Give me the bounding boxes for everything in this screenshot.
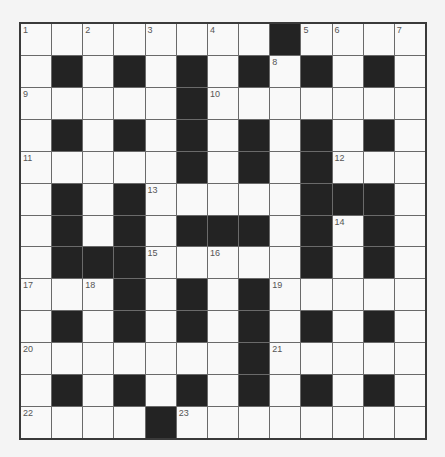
letter-cell[interactable] <box>146 56 176 87</box>
letter-cell[interactable]: 1 <box>21 24 51 55</box>
letter-cell[interactable] <box>177 247 207 278</box>
letter-cell[interactable] <box>177 184 207 215</box>
letter-cell[interactable] <box>177 343 207 374</box>
letter-cell[interactable] <box>208 120 238 151</box>
letter-cell[interactable]: 21 <box>270 343 300 374</box>
letter-cell[interactable] <box>395 216 425 247</box>
letter-cell[interactable]: 8 <box>270 56 300 87</box>
letter-cell[interactable] <box>52 152 82 183</box>
letter-cell[interactable] <box>333 120 363 151</box>
letter-cell[interactable] <box>395 407 425 438</box>
letter-cell[interactable] <box>301 407 331 438</box>
letter-cell[interactable] <box>239 184 269 215</box>
letter-cell[interactable] <box>21 375 51 406</box>
letter-cell[interactable] <box>83 407 113 438</box>
letter-cell[interactable] <box>83 88 113 119</box>
letter-cell[interactable] <box>270 120 300 151</box>
letter-cell[interactable]: 13 <box>146 184 176 215</box>
letter-cell[interactable] <box>395 247 425 278</box>
letter-cell[interactable] <box>208 375 238 406</box>
letter-cell[interactable] <box>301 88 331 119</box>
letter-cell[interactable]: 22 <box>21 407 51 438</box>
letter-cell[interactable] <box>208 56 238 87</box>
letter-cell[interactable]: 20 <box>21 343 51 374</box>
letter-cell[interactable]: 4 <box>208 24 238 55</box>
letter-cell[interactable] <box>208 152 238 183</box>
letter-cell[interactable]: 5 <box>301 24 331 55</box>
letter-cell[interactable] <box>146 279 176 310</box>
letter-cell[interactable] <box>146 311 176 342</box>
letter-cell[interactable] <box>114 343 144 374</box>
letter-cell[interactable] <box>21 216 51 247</box>
letter-cell[interactable] <box>301 279 331 310</box>
letter-cell[interactable] <box>208 311 238 342</box>
letter-cell[interactable] <box>21 184 51 215</box>
letter-cell[interactable] <box>146 375 176 406</box>
letter-cell[interactable] <box>395 56 425 87</box>
letter-cell[interactable] <box>239 24 269 55</box>
letter-cell[interactable] <box>364 88 394 119</box>
letter-cell[interactable] <box>364 407 394 438</box>
letter-cell[interactable] <box>146 152 176 183</box>
letter-cell[interactable] <box>270 247 300 278</box>
letter-cell[interactable] <box>83 184 113 215</box>
letter-cell[interactable] <box>333 311 363 342</box>
letter-cell[interactable]: 14 <box>333 216 363 247</box>
letter-cell[interactable] <box>114 152 144 183</box>
letter-cell[interactable] <box>52 407 82 438</box>
letter-cell[interactable] <box>239 247 269 278</box>
letter-cell[interactable] <box>301 343 331 374</box>
letter-cell[interactable] <box>21 311 51 342</box>
letter-cell[interactable] <box>395 152 425 183</box>
letter-cell[interactable] <box>395 343 425 374</box>
letter-cell[interactable] <box>333 343 363 374</box>
letter-cell[interactable]: 15 <box>146 247 176 278</box>
letter-cell[interactable]: 18 <box>83 279 113 310</box>
letter-cell[interactable] <box>270 88 300 119</box>
letter-cell[interactable]: 9 <box>21 88 51 119</box>
letter-cell[interactable] <box>208 184 238 215</box>
letter-cell[interactable] <box>270 407 300 438</box>
letter-cell[interactable] <box>146 88 176 119</box>
letter-cell[interactable] <box>333 375 363 406</box>
letter-cell[interactable] <box>146 216 176 247</box>
letter-cell[interactable]: 17 <box>21 279 51 310</box>
letter-cell[interactable]: 19 <box>270 279 300 310</box>
letter-cell[interactable] <box>333 279 363 310</box>
letter-cell[interactable] <box>83 343 113 374</box>
letter-cell[interactable] <box>239 88 269 119</box>
letter-cell[interactable] <box>395 88 425 119</box>
letter-cell[interactable]: 11 <box>21 152 51 183</box>
letter-cell[interactable] <box>395 375 425 406</box>
letter-cell[interactable]: 6 <box>333 24 363 55</box>
letter-cell[interactable] <box>364 343 394 374</box>
letter-cell[interactable] <box>21 120 51 151</box>
letter-cell[interactable] <box>83 120 113 151</box>
letter-cell[interactable]: 23 <box>177 407 207 438</box>
letter-cell[interactable] <box>333 88 363 119</box>
letter-cell[interactable]: 12 <box>333 152 363 183</box>
letter-cell[interactable]: 10 <box>208 88 238 119</box>
letter-cell[interactable] <box>83 152 113 183</box>
letter-cell[interactable] <box>208 407 238 438</box>
letter-cell[interactable] <box>21 56 51 87</box>
letter-cell[interactable] <box>83 56 113 87</box>
letter-cell[interactable] <box>395 184 425 215</box>
letter-cell[interactable] <box>333 247 363 278</box>
letter-cell[interactable] <box>239 407 269 438</box>
letter-cell[interactable] <box>52 88 82 119</box>
letter-cell[interactable]: 16 <box>208 247 238 278</box>
letter-cell[interactable] <box>270 152 300 183</box>
letter-cell[interactable] <box>270 311 300 342</box>
letter-cell[interactable] <box>114 88 144 119</box>
letter-cell[interactable] <box>177 24 207 55</box>
letter-cell[interactable] <box>83 216 113 247</box>
letter-cell[interactable] <box>208 279 238 310</box>
letter-cell[interactable] <box>114 24 144 55</box>
letter-cell[interactable]: 3 <box>146 24 176 55</box>
letter-cell[interactable] <box>114 407 144 438</box>
letter-cell[interactable] <box>395 279 425 310</box>
letter-cell[interactable] <box>364 24 394 55</box>
letter-cell[interactable] <box>52 24 82 55</box>
letter-cell[interactable] <box>83 311 113 342</box>
